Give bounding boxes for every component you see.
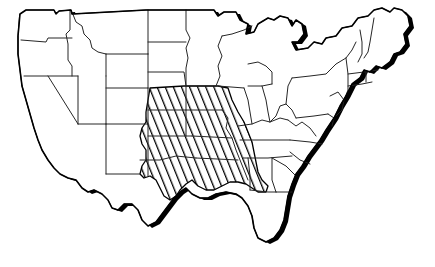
us-map-svg: [0, 0, 435, 267]
us-map-figure: [0, 0, 435, 267]
